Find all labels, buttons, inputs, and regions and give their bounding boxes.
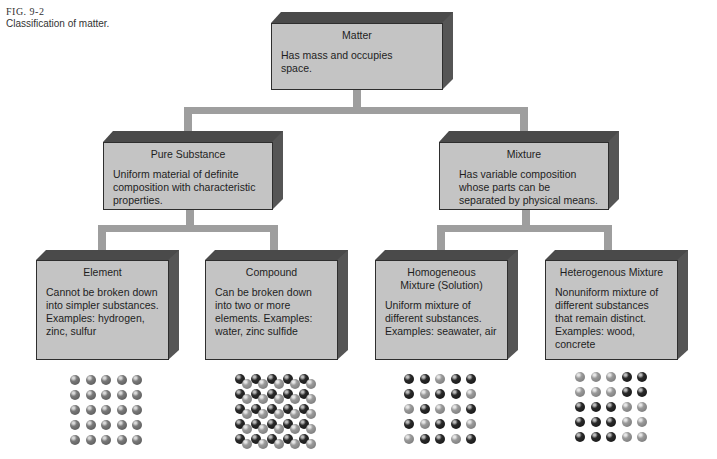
particle — [451, 434, 461, 444]
particle — [86, 405, 96, 415]
particle — [622, 417, 632, 427]
particle — [101, 420, 111, 430]
particle — [575, 417, 585, 427]
node-pure-substance: Pure Substance Uniform material of defin… — [103, 131, 283, 210]
particle — [575, 402, 585, 412]
particle — [591, 387, 601, 397]
particle — [420, 419, 430, 429]
particle — [117, 420, 127, 430]
node-description: Has variable composition whose parts can… — [449, 168, 599, 207]
particle — [101, 375, 111, 385]
node-title: Homogeneous Mixture (Solution) — [385, 266, 498, 292]
connector-mixture-bar — [437, 225, 612, 232]
particle — [435, 389, 445, 399]
particle — [466, 419, 476, 429]
particle — [70, 375, 80, 385]
node-title: Mixture — [449, 148, 599, 161]
particle — [435, 419, 445, 429]
particle — [101, 405, 111, 415]
particle — [637, 417, 647, 427]
particle — [622, 387, 632, 397]
node-title: Matter — [281, 29, 433, 42]
particle — [575, 372, 585, 382]
node-title: Pure Substance — [113, 148, 263, 161]
particle — [606, 417, 616, 427]
particle — [435, 434, 445, 444]
particle — [591, 432, 601, 442]
particle — [622, 432, 632, 442]
particle — [404, 389, 414, 399]
particle — [132, 390, 142, 400]
node-heterogeneous-mixture: Heterogenous Mixture Nonuniform mixture … — [545, 250, 688, 360]
particle — [606, 372, 616, 382]
particle — [575, 387, 585, 397]
particle — [117, 390, 127, 400]
figure-number: FIG. 9-2 — [6, 6, 109, 18]
particle — [86, 375, 96, 385]
particle — [435, 374, 445, 384]
particle — [451, 419, 461, 429]
particle — [101, 435, 111, 445]
particle — [132, 405, 142, 415]
figure-caption: FIG. 9-2 Classification of matter. — [6, 6, 109, 30]
particle — [101, 390, 111, 400]
particle — [420, 389, 430, 399]
particle — [606, 387, 616, 397]
particle — [575, 432, 585, 442]
particle — [86, 420, 96, 430]
particle — [70, 390, 80, 400]
particle — [606, 432, 616, 442]
particle — [117, 435, 127, 445]
particle — [637, 372, 647, 382]
particle — [637, 387, 647, 397]
particle — [435, 404, 445, 414]
particle — [70, 405, 80, 415]
particle — [466, 434, 476, 444]
particle — [606, 402, 616, 412]
particle — [451, 389, 461, 399]
particle — [622, 372, 632, 382]
particle-gray — [306, 424, 316, 434]
node-mixture: Mixture Has variable composition whose p… — [439, 131, 619, 210]
particle — [420, 374, 430, 384]
node-element: Element Cannot be broken down into simpl… — [36, 250, 179, 360]
node-compound: Compound Can be broken down into two or … — [205, 250, 348, 360]
node-description: Uniform material of definite composition… — [113, 168, 263, 207]
particle — [420, 404, 430, 414]
connector-pure-bar — [98, 225, 278, 232]
particle — [70, 435, 80, 445]
particle — [420, 434, 430, 444]
particle — [117, 375, 127, 385]
particle — [591, 402, 601, 412]
particle — [451, 374, 461, 384]
particle — [591, 417, 601, 427]
particle-gray — [306, 439, 316, 449]
node-homogeneous-mixture: Homogeneous Mixture (Solution) Uniform m… — [375, 250, 518, 360]
node-description: Cannot be broken down into simpler subst… — [46, 286, 159, 338]
node-description: Uniform mixture of different substances.… — [385, 299, 498, 338]
node-title: Element — [46, 266, 159, 279]
particle — [86, 435, 96, 445]
node-description: Can be broken down into two or more elem… — [215, 286, 328, 338]
particle — [637, 402, 647, 412]
node-title: Compound — [215, 266, 328, 279]
particle — [591, 372, 601, 382]
particle — [404, 404, 414, 414]
node-matter: Matter Has mass and occupies space. — [271, 12, 453, 90]
particle — [637, 432, 647, 442]
particle — [86, 390, 96, 400]
particle — [451, 404, 461, 414]
particle — [466, 374, 476, 384]
particle — [466, 389, 476, 399]
node-title: Heterogenous Mixture — [555, 266, 668, 279]
node-description: Nonuniform mixture of different substanc… — [555, 286, 668, 351]
particle — [132, 435, 142, 445]
particle-gray — [306, 379, 316, 389]
node-description: Has mass and occupies space. — [281, 49, 433, 75]
particle — [622, 402, 632, 412]
particle — [132, 375, 142, 385]
particle — [404, 374, 414, 384]
particle — [70, 420, 80, 430]
particle — [404, 419, 414, 429]
particle-gray — [306, 409, 316, 419]
